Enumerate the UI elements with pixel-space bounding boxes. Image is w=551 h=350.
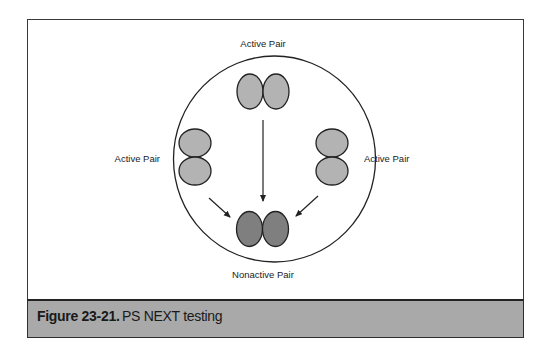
right-active-pair bbox=[316, 129, 348, 185]
left-active-pair bbox=[179, 129, 211, 185]
label-top-active-pair: Active Pair bbox=[240, 38, 285, 49]
figure-caption-text: PS NEXT testing bbox=[122, 308, 222, 324]
label-nonactive-pair: Nonactive Pair bbox=[232, 269, 294, 280]
arrow-right-to-bottom bbox=[296, 196, 318, 216]
label-right-active-pair: Active Pair bbox=[364, 153, 409, 164]
ps-next-diagram: Active Pair Active Pair Active Pair Nona… bbox=[0, 0, 551, 350]
arrow-left-to-bottom bbox=[209, 198, 230, 217]
figure-caption-bar: Figure 23-21. PS NEXT testing bbox=[27, 299, 524, 338]
label-left-active-pair: Active Pair bbox=[115, 153, 160, 164]
bottom-nonactive-pair bbox=[237, 212, 289, 247]
top-active-pair bbox=[237, 74, 289, 109]
figure-number: Figure 23-21. bbox=[37, 308, 119, 324]
